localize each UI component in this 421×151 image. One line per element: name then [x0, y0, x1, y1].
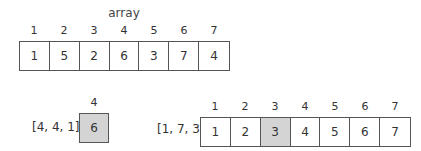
index-label: 1 — [200, 100, 230, 113]
array-cell: 3 — [139, 42, 169, 70]
array-cell: 6 — [110, 42, 140, 70]
index-label: 6 — [169, 24, 199, 37]
array-cell: 2 — [80, 42, 110, 70]
top-array: 1 5 2 6 3 7 4 — [19, 41, 230, 71]
array-cell: 7 — [380, 118, 410, 146]
single-cell: 6 — [79, 113, 109, 143]
index-label: 2 — [230, 100, 260, 113]
array-cell: 5 — [320, 118, 350, 146]
array-cell: 6 — [350, 118, 380, 146]
array-cell: 4 — [199, 42, 229, 70]
top-array-indices: 1 2 3 4 5 6 7 — [19, 24, 229, 37]
single-index-label: 4 — [79, 96, 109, 109]
index-label: 7 — [199, 24, 229, 37]
array-cell: 4 — [291, 118, 321, 146]
array-cell: 5 — [50, 42, 80, 70]
index-label: 7 — [380, 100, 410, 113]
single-tuple-label: [4, 4, 1] — [32, 120, 80, 134]
index-label: 3 — [79, 24, 109, 37]
bottom-array: 1 2 3 4 5 6 7 — [200, 117, 411, 147]
array-cell: 1 — [20, 42, 50, 70]
index-label: 1 — [19, 24, 49, 37]
index-label: 5 — [139, 24, 169, 37]
array-title: array — [94, 6, 154, 20]
index-label: 2 — [49, 24, 79, 37]
array-cell-highlighted: 3 — [261, 118, 291, 146]
array-cell: 1 — [201, 118, 231, 146]
bottom-array-indices: 1 2 3 4 5 6 7 — [200, 100, 410, 113]
index-label: 5 — [320, 100, 350, 113]
array-cell: 7 — [169, 42, 199, 70]
index-label: 6 — [350, 100, 380, 113]
bottom-tuple-label: [1, 7, 3] — [157, 122, 205, 136]
index-label: 4 — [109, 24, 139, 37]
array-cell: 2 — [231, 118, 261, 146]
index-label: 3 — [260, 100, 290, 113]
index-label: 4 — [290, 100, 320, 113]
